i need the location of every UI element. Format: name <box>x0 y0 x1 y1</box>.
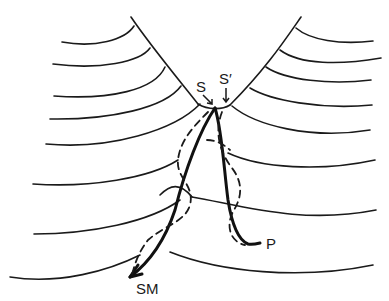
contour-right-2 <box>280 50 381 63</box>
contour-left-9-stub <box>160 187 192 197</box>
contour-right-7 <box>192 197 376 215</box>
contour-left-8 <box>10 255 140 279</box>
contour-left-6 <box>33 160 178 185</box>
solid-flow-path-to-p <box>215 108 260 244</box>
contour-left-7 <box>34 200 180 234</box>
solid-flow-path-to-sm <box>130 108 215 277</box>
label-sm: SM <box>136 280 159 297</box>
s-prime-pointer-arrow-icon <box>223 88 229 102</box>
contour-left-2 <box>53 48 150 66</box>
contour-left-3 <box>54 67 165 97</box>
dashed-flow-path-to-p <box>218 112 245 245</box>
valley-contour-diagram: S S′ SM P <box>0 0 389 301</box>
contour-right-6 <box>228 153 375 167</box>
label-s: S <box>196 78 206 95</box>
contour-left-1 <box>62 26 134 44</box>
label-s-prime: S′ <box>219 70 232 87</box>
contour-right-3 <box>266 67 371 82</box>
contour-left-5 <box>46 104 200 145</box>
dashed-flow-path-to-sm <box>132 112 208 275</box>
contour-right-5 <box>232 106 370 133</box>
contour-left-4 <box>50 86 181 119</box>
s-pointer-arrow-icon <box>203 95 212 104</box>
contour-right-4 <box>250 88 372 106</box>
label-p: P <box>266 235 276 252</box>
contour-right-8 <box>170 252 373 273</box>
contour-right-1 <box>296 28 373 42</box>
left-valley-wall <box>131 17 198 104</box>
right-valley-wall <box>230 17 301 105</box>
